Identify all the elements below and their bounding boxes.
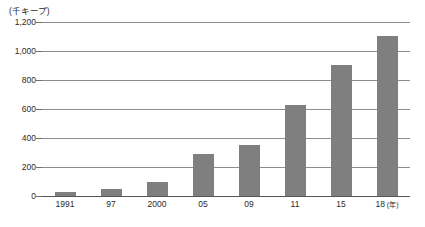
y-axis-labels: 02004006008001,0001,200 [6, 22, 36, 196]
y-tick-label-200: 200 [22, 162, 36, 172]
x-tick-label-1991: 1991 [56, 199, 75, 209]
y-axis-unit-label: (千キープ) [9, 4, 50, 16]
bar-series [42, 22, 410, 196]
x-tick-label-09: 09 [244, 199, 253, 209]
y-tick-0 [36, 196, 42, 197]
bar-11 [285, 105, 306, 196]
bar-97 [101, 189, 122, 196]
bar-05 [193, 154, 214, 196]
y-tick-label-600: 600 [22, 104, 36, 114]
x-axis-unit-label: (年) [385, 201, 399, 208]
bar-1991 [55, 192, 76, 196]
x-tick-label-18: 18 (年) [375, 199, 398, 209]
x-tick-label-05: 05 [198, 199, 207, 209]
bar-09 [239, 145, 260, 196]
plot-area [42, 22, 410, 196]
x-tick-label-15: 15 [336, 199, 345, 209]
x-tick-label-2000: 2000 [148, 199, 167, 209]
x-tick-label-97: 97 [106, 199, 115, 209]
y-tick-label-800: 800 [22, 75, 36, 85]
y-tick-label-400: 400 [22, 133, 36, 143]
bar-15 [331, 65, 352, 196]
bar-18 [377, 36, 398, 196]
y-tick-label-1200: 1,200 [15, 17, 36, 27]
axis-baseline [42, 196, 410, 197]
y-tick-label-1000: 1,000 [15, 46, 36, 56]
x-tick-label-11: 11 [291, 199, 300, 209]
bar-chart: (千キープ) 02004006008001,0001,200 199197200… [0, 0, 425, 227]
bar-2000 [147, 182, 168, 197]
x-axis-labels: 19919720000509111518 (年) [42, 199, 410, 215]
